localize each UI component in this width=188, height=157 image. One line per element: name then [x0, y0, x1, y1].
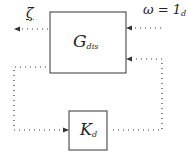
output-signal-label: ζ: [26, 6, 34, 20]
controller-input-arrow-icon: [63, 128, 69, 133]
input-arrow-icon: [126, 26, 132, 31]
measurement-path: [14, 67, 63, 130]
controller-label: Kd: [80, 122, 97, 139]
input-signal-label: ω = 1d: [143, 3, 186, 18]
plant-control-arrow-icon: [126, 57, 132, 62]
control-path: [113, 59, 162, 130]
plant-label: Gdis: [73, 33, 98, 51]
output-arrow-icon: [14, 27, 20, 32]
